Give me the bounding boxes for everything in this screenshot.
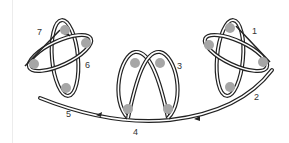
label-6: 6 — [85, 60, 90, 70]
label-4: 4 — [133, 127, 138, 137]
label-2: 2 — [254, 92, 259, 102]
label-7: 7 — [37, 27, 42, 37]
label-5: 5 — [66, 109, 71, 119]
diagram-canvas: 1 2 3 4 5 6 7 — [0, 0, 289, 143]
label-3: 3 — [177, 61, 182, 71]
knot-diagram: 1 2 3 4 5 6 7 — [0, 0, 289, 143]
label-1: 1 — [252, 26, 257, 36]
left-cluster — [24, 19, 96, 97]
